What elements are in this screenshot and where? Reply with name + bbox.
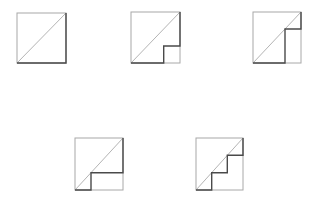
diagonal-line — [17, 13, 66, 63]
diagonal-line — [75, 138, 123, 190]
diagonal-line — [131, 12, 180, 63]
square-figure-4 — [75, 138, 123, 190]
diagram-canvas — [0, 0, 321, 206]
square-figure-2 — [131, 12, 180, 63]
square-figure-5 — [196, 138, 243, 190]
square-figure-1 — [17, 13, 66, 63]
diagonal-line — [253, 12, 301, 63]
diagonal-line — [196, 138, 243, 190]
square-figure-3 — [253, 12, 301, 63]
